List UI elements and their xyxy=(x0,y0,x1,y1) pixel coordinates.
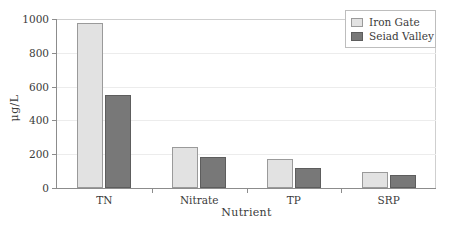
y-axis-tick-mark xyxy=(52,19,57,20)
y-axis-tick-mark xyxy=(52,53,57,54)
y-axis-tick-label: 400 xyxy=(3,115,57,126)
gridline xyxy=(57,87,436,88)
gridline xyxy=(57,53,436,54)
y-axis-tick-mark xyxy=(52,120,57,121)
y-axis-tick-label: 200 xyxy=(3,149,57,160)
bar xyxy=(267,159,293,188)
x-axis-category-label: Nitrate xyxy=(180,194,218,206)
x-axis-tick-mark xyxy=(152,188,153,193)
legend: Iron GateSeiad Valley xyxy=(345,10,436,48)
x-axis-category-label: SRP xyxy=(378,194,400,206)
y-axis-tick-label: 0 xyxy=(3,183,57,194)
legend-swatch-icon xyxy=(351,32,363,41)
y-axis-tick-mark xyxy=(52,87,57,88)
y-axis-tick-label: 600 xyxy=(3,81,57,92)
bar xyxy=(390,175,416,188)
x-axis-tick-mark xyxy=(341,188,342,193)
y-axis-tick-mark xyxy=(52,154,57,155)
bar-chart-figure: μg/L 02004006008001000 TNNitrateTPSRP Nu… xyxy=(0,0,452,230)
legend-item: Iron Gate xyxy=(351,15,430,29)
x-axis-category-label: TP xyxy=(287,194,301,206)
bar xyxy=(77,23,103,188)
legend-swatch-icon xyxy=(351,18,363,27)
y-axis-tick-mark xyxy=(52,188,57,189)
legend-item-label: Seiad Valley xyxy=(369,31,434,42)
bar xyxy=(105,95,131,188)
y-axis-tick-label: 800 xyxy=(3,48,57,59)
bar xyxy=(172,147,198,188)
legend-item: Seiad Valley xyxy=(351,29,430,43)
bar xyxy=(362,172,388,188)
bar xyxy=(295,168,321,188)
legend-item-label: Iron Gate xyxy=(369,17,420,28)
y-axis-tick-label: 1000 xyxy=(3,14,57,25)
x-axis-title: Nutrient xyxy=(57,206,436,219)
bar xyxy=(200,157,226,188)
y-axis-line xyxy=(56,19,57,189)
x-axis-category-label: TN xyxy=(96,194,112,206)
x-axis-tick-mark xyxy=(247,188,248,193)
